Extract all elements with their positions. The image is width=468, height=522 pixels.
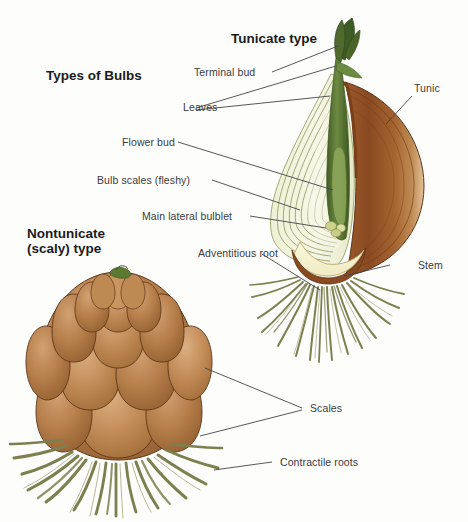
label-scales: Scales xyxy=(310,402,342,415)
nontunicate-section-title-line2: (scaly) type xyxy=(27,241,101,257)
label-stem: Stem xyxy=(418,259,443,272)
label-terminal-bud: Terminal bud xyxy=(194,66,255,79)
tunicate-bulb xyxy=(250,18,424,362)
label-adventitious-root: Adventitious root xyxy=(198,247,278,260)
label-leaves: Leaves xyxy=(183,101,217,114)
adventitious-roots xyxy=(250,277,404,362)
leader-scales-a xyxy=(205,368,302,408)
tunicate-section-title: Tunicate type xyxy=(231,31,317,47)
leader-scales-b xyxy=(200,410,302,436)
types-of-bulbs-figure: Types of Bulbs Tunicate type Nontunicate… xyxy=(0,0,468,522)
label-main-lateral-bulblet: Main lateral bulblet xyxy=(142,210,232,223)
main-title: Types of Bulbs xyxy=(46,68,142,84)
label-bulb-scales: Bulb scales (fleshy) xyxy=(97,174,190,187)
tunic-layer xyxy=(345,82,424,276)
nontunicate-section-title-line1: Nontunicate xyxy=(27,226,105,242)
nontunicate-bulb xyxy=(10,266,222,518)
label-flower-bud: Flower bud xyxy=(122,136,175,149)
label-tunic: Tunic xyxy=(414,82,440,95)
leader-contractile-roots xyxy=(214,462,272,470)
label-contractile-roots: Contractile roots xyxy=(280,456,358,469)
flower-bud xyxy=(332,147,347,225)
